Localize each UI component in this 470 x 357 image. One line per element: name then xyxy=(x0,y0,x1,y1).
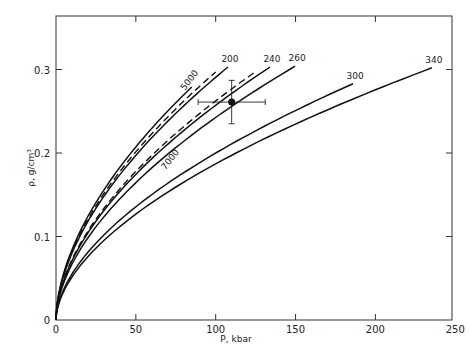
curve-label-340: 340 xyxy=(425,55,442,65)
curve-label-240: 240 xyxy=(263,54,280,64)
data-point-with-error-bars xyxy=(198,80,265,123)
x-tick-label: 200 xyxy=(366,324,385,335)
curve-200 xyxy=(56,67,228,320)
curves xyxy=(56,66,432,320)
data-point-marker xyxy=(228,99,235,106)
y-tick-label: 0.2 xyxy=(34,148,50,159)
x-tick-label: 150 xyxy=(286,324,305,335)
curve-label-260: 260 xyxy=(288,53,305,63)
curve-labels: 20024026030034050007000 xyxy=(159,53,443,171)
curve-label-300: 300 xyxy=(346,71,363,81)
x-tick-label: 250 xyxy=(446,324,465,335)
curve-240 xyxy=(56,67,270,320)
y-tick-label: 0.1 xyxy=(34,232,50,243)
y-tick-label: 0 xyxy=(44,315,50,326)
curve-unlabeled xyxy=(56,87,192,320)
curve-340 xyxy=(56,68,432,320)
x-tick-label: 0 xyxy=(53,324,59,335)
y-tick-label: 0.3 xyxy=(34,65,50,76)
curve-5000 xyxy=(56,72,216,320)
curve-260 xyxy=(56,66,295,320)
plot-frame xyxy=(56,16,452,320)
x-tick-label: 50 xyxy=(129,324,142,335)
curve-7000 xyxy=(56,73,254,320)
y-axis: 00.10.20.3 xyxy=(34,65,452,327)
y-axis-label: ρ, g/cm³ xyxy=(26,149,36,187)
x-axis-label: P, kbar xyxy=(220,334,252,344)
curve-label-200: 200 xyxy=(221,54,238,64)
chart: 050100150200250 00.10.20.3 2002402603003… xyxy=(0,0,470,357)
